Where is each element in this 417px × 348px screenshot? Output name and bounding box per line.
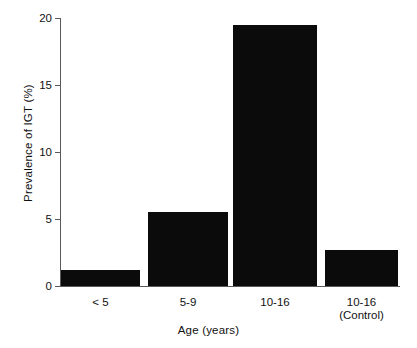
x-axis-line bbox=[59, 286, 400, 287]
y-tick-mark bbox=[55, 18, 60, 19]
y-axis-title: Prevalence of IGT (%) bbox=[18, 0, 38, 286]
y-tick-mark bbox=[55, 219, 60, 220]
x-tick-label: 10-16 bbox=[233, 296, 317, 309]
y-tick-label: 0 bbox=[46, 280, 52, 292]
y-tick-label: 20 bbox=[39, 12, 52, 24]
bar bbox=[233, 25, 317, 286]
chart-figure: Prevalence of IGT (%) 05101520 < 55-910-… bbox=[0, 0, 417, 348]
y-tick-label: 10 bbox=[39, 146, 52, 158]
x-tick-label: 5-9 bbox=[148, 296, 228, 309]
y-tick-mark bbox=[55, 85, 60, 86]
x-tick-label: < 5 bbox=[61, 296, 140, 309]
x-tick-label: 10-16 (Control) bbox=[325, 296, 398, 322]
y-tick-label: 15 bbox=[39, 79, 52, 91]
y-axis-line bbox=[60, 18, 61, 286]
bar bbox=[325, 250, 398, 286]
plot-area: 05101520 < 55-910-1610-16 (Control) bbox=[60, 18, 400, 286]
bar bbox=[148, 212, 228, 286]
y-tick-label: 5 bbox=[46, 213, 52, 225]
x-axis-title: Age (years) bbox=[0, 324, 417, 336]
y-tick-mark bbox=[55, 152, 60, 153]
y-tick-mark bbox=[55, 286, 60, 287]
bar bbox=[61, 270, 140, 286]
